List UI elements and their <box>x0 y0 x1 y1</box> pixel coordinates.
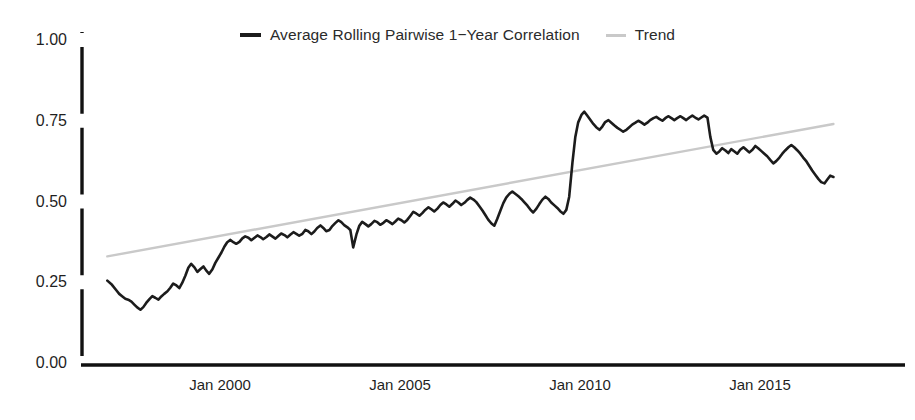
y-tick-label: 0.50 <box>5 193 67 211</box>
correlation-chart: Average Rolling Pairwise 1−Year Correlat… <box>0 0 915 420</box>
y-tick-label: 1.00 <box>5 31 67 49</box>
trend-line <box>107 124 833 256</box>
plot-area <box>0 0 915 420</box>
y-tick-label: 0.75 <box>5 112 67 130</box>
trend-line-group <box>107 124 833 256</box>
x-tick-label: Jan 2010 <box>549 376 611 393</box>
correlation-line <box>107 112 833 310</box>
x-tick-label: Jan 2000 <box>189 376 251 393</box>
y-tick-label: 0.00 <box>5 354 67 372</box>
series-line-group <box>107 112 833 310</box>
x-tick-label: Jan 2015 <box>729 376 791 393</box>
x-tick-label: Jan 2005 <box>369 376 431 393</box>
y-tick-label: 0.25 <box>5 273 67 291</box>
axis-group <box>81 32 905 365</box>
